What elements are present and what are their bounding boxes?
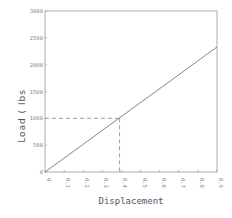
x-tick-label: 0.2 — [84, 178, 90, 188]
plot-frame — [45, 11, 217, 172]
x-tick-label: 0.5 — [142, 178, 148, 188]
x-tick-label: 0.3 — [103, 178, 109, 188]
y-tick-label: 500 — [33, 142, 43, 148]
y-tick-label: 2500 — [30, 35, 43, 41]
x-tick-label: 0.8 — [199, 178, 205, 188]
data-series — [45, 47, 217, 172]
series-line — [45, 47, 217, 172]
y-axis-title: Load ( lbs — [17, 89, 27, 143]
load-displacement-chart: 050010001500200025003000 00.10.20.30.40.… — [0, 0, 232, 218]
x-axis-title: Displacement — [98, 196, 163, 206]
y-axis-ticks: 050010001500200025003000 — [30, 8, 47, 175]
x-tick-label: 0.7 — [180, 178, 186, 188]
x-tick-label: 0.9 — [218, 178, 224, 188]
y-tick-label: 2000 — [30, 62, 43, 68]
plot-border — [45, 11, 217, 172]
x-axis-ticks: 00.10.20.30.40.50.60.70.80.9 — [45, 170, 224, 189]
y-tick-label: 3000 — [30, 8, 43, 14]
x-tick-label: 0 — [46, 178, 52, 181]
y-tick-label: 0 — [40, 169, 43, 175]
x-tick-label: 0.1 — [65, 178, 71, 188]
x-tick-label: 0.6 — [161, 178, 167, 188]
x-tick-label: 0.4 — [122, 178, 128, 189]
y-tick-label: 1500 — [30, 89, 43, 95]
y-tick-label: 1000 — [30, 115, 43, 121]
